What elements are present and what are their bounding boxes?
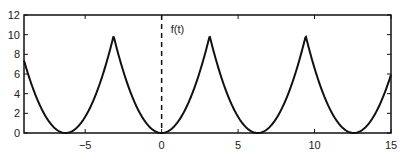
- f-t-curve: [24, 37, 391, 133]
- x-tick-label: −5: [79, 139, 92, 151]
- y-tick-label: 4: [14, 88, 20, 100]
- f-t-label: f(t): [171, 23, 184, 35]
- x-tick-label: 5: [235, 139, 241, 151]
- y-tick-label: 8: [14, 48, 20, 60]
- y-tick-label: 0: [14, 127, 20, 139]
- x-tick-label: 0: [159, 139, 165, 151]
- y-tick-label: 2: [14, 107, 20, 119]
- y-tick-label: 6: [14, 68, 20, 80]
- y-tick-label: 10: [8, 29, 20, 41]
- chart: 024681012 −5051015 f(t): [0, 0, 408, 161]
- x-tick-label: 10: [308, 139, 320, 151]
- y-tick-label: 12: [8, 9, 20, 21]
- x-tick-label: 15: [385, 139, 397, 151]
- axes-frame: [24, 15, 391, 133]
